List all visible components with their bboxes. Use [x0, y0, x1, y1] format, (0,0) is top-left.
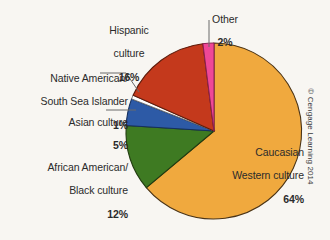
pie-chart-figure: Other 2% Hispanic culture 16% Native Ame…: [0, 0, 330, 240]
slice-label-asian: Asian culture 5%: [14, 105, 128, 152]
slice-label-other: Other 2%: [197, 2, 253, 49]
slice-label-other-name: Other: [212, 13, 238, 25]
slice-label-native-american-line1: Native American/: [50, 72, 128, 84]
slice-label-hispanic-line2: culture: [114, 47, 145, 59]
slice-label-african-american-line1: African American/: [47, 161, 128, 173]
slice-label-african-american-line2: Black culture: [69, 184, 128, 196]
copyright-credit: © Cengage Learning 2014: [306, 79, 315, 195]
slice-label-caucasian-line2: Western culture: [232, 169, 304, 181]
slice-label-caucasian-line1: Caucasian: [255, 146, 304, 158]
slice-label-other-percent: 2%: [218, 36, 233, 48]
slice-label-african-american: African American/ Black culture 12%: [10, 150, 128, 221]
slice-label-african-american-percent: 12%: [107, 208, 128, 220]
slice-label-caucasian-percent: 64%: [283, 193, 304, 205]
slice-label-caucasian: Caucasian Western culture 64%: [216, 135, 304, 206]
slice-label-hispanic-line1: Hispanic: [109, 24, 148, 36]
slice-label-asian-line1: Asian culture: [69, 116, 128, 128]
